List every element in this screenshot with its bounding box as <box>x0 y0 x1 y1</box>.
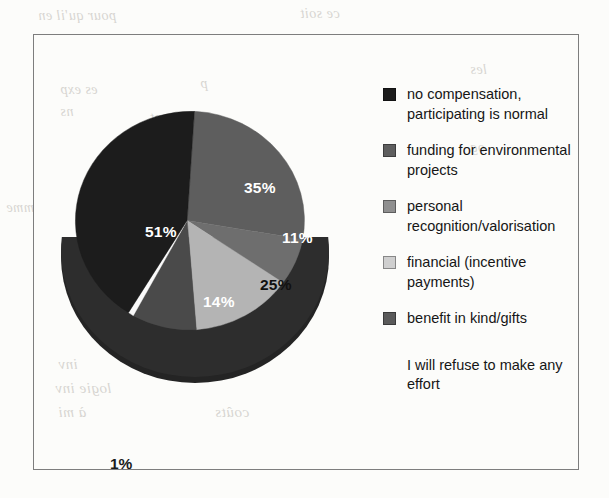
legend-item-financial[interactable]: financial (incentive payments) <box>383 253 603 292</box>
legend-label: no compensation, participating is normal <box>407 85 597 124</box>
legend-swatch-icon <box>383 200 396 213</box>
pie-label-benefit-in-kind: 11% <box>282 229 313 247</box>
legend-label: benefit in kind/gifts <box>407 309 527 329</box>
legend-label: funding for environmental projects <box>407 141 597 180</box>
legend-swatch-icon <box>383 359 396 372</box>
legend-swatch-icon <box>383 312 396 325</box>
bleed-through-text: ce soit <box>300 6 340 22</box>
legend-swatch-icon <box>383 88 396 101</box>
pie-chart: 51% 35% 11% 25% 14% <box>61 111 347 401</box>
legend-item-refuse[interactable]: I will refuse to make any effort <box>383 356 603 395</box>
pie-slice-funding[interactable] <box>187 111 304 239</box>
bleed-through-text: pour qu'il en <box>38 8 116 24</box>
legend-item-funding[interactable]: funding for environmental projects <box>383 141 603 180</box>
legend-item-no-compensation[interactable]: no compensation, participating is normal <box>383 85 603 124</box>
legend-swatch-icon <box>383 256 396 269</box>
pie-label-no-compensation: 51% <box>145 223 177 241</box>
pie-label-financial: 14% <box>203 293 235 311</box>
legend-label: personal recognition/valorisation <box>407 197 597 236</box>
pie-label-refuse: 1% <box>110 455 132 473</box>
chart-legend: no compensation, participating is normal… <box>383 85 603 412</box>
legend-label: financial (incentive payments) <box>407 253 597 292</box>
scanned-page: pour qu'il en ce soit es exp p ns ent in… <box>0 0 609 498</box>
bleed-through-text: mme <box>6 200 34 216</box>
legend-item-benefit-in-kind[interactable]: benefit in kind/gifts <box>383 309 603 329</box>
legend-label: I will refuse to make any effort <box>407 356 597 395</box>
pie-label-funding: 35% <box>244 179 276 197</box>
chart-frame: 51% 35% 11% 25% 14% 1% no compensation, … <box>33 34 579 470</box>
legend-item-personal-recognition[interactable]: personal recognition/valorisation <box>383 197 603 236</box>
legend-swatch-icon <box>383 144 396 157</box>
pie-label-personal-recognition: 25% <box>260 276 292 294</box>
